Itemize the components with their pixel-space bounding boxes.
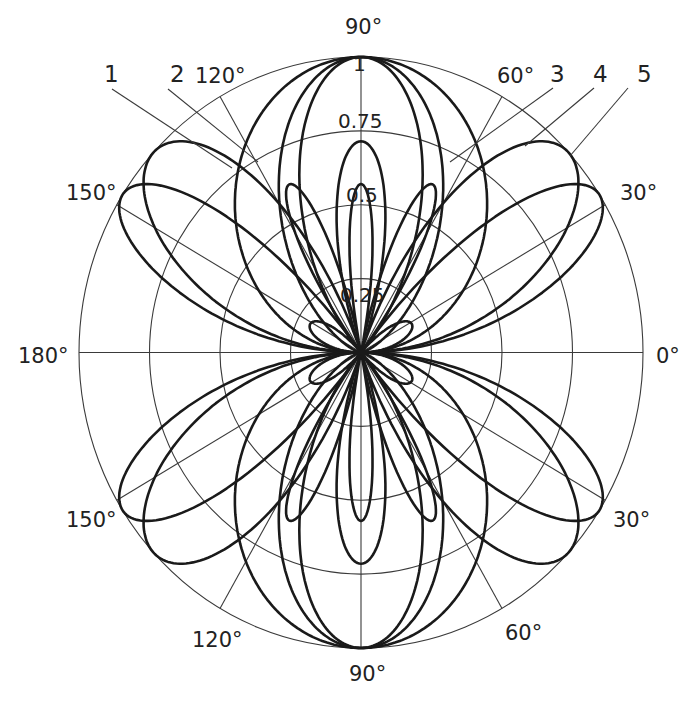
angle-label-0: 0° [656,344,680,368]
curve-label-4: 4 [593,61,608,87]
ring-label-1: 1 [353,52,366,76]
angle-label-30-bottom: 30° [613,508,650,532]
angle-label-150-bottom: 150° [66,508,117,532]
angle-label-150-top: 150° [66,181,117,205]
leader-line-3 [450,88,553,162]
angle-label-120-bottom: 120° [192,628,243,652]
angle-label-180: 180° [18,344,69,368]
ring-label-0-75: 0.75 [338,109,383,133]
angle-label-120-top: 120° [195,64,246,88]
ring-label-0-25: 0.25 [340,283,385,307]
curve-label-1: 1 [104,61,119,87]
grid-radial-line [220,353,361,609]
polar-chart: 1 0.75 0.5 0.25 90° 60° 120° 30° 150° 18… [0,0,695,702]
curve-label-5: 5 [637,61,652,87]
curve-label-2: 2 [170,61,185,87]
angle-label-60-bottom: 60° [505,621,542,645]
leader-line-2 [168,89,258,162]
ring-label-0-5: 0.5 [346,183,378,207]
angle-label-30-top: 30° [620,181,657,205]
grid-radial-line [361,353,502,609]
curve-label-3: 3 [550,61,565,87]
grid-radial-line [361,97,502,353]
grid-radial-line [220,97,361,353]
angle-label-90-top: 90° [345,15,382,39]
angle-label-60-top: 60° [497,64,534,88]
leader-line-5 [570,88,628,156]
angle-label-90-bottom: 90° [349,662,386,686]
leader-line-4 [525,88,594,146]
